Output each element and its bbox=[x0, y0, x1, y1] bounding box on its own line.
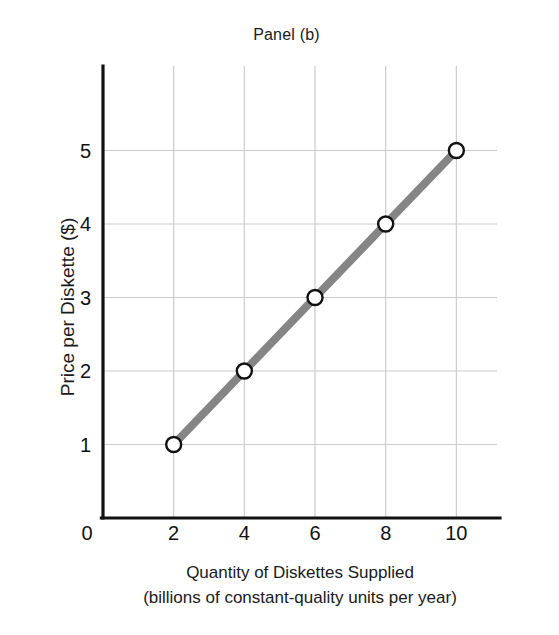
x-tick-label: 8 bbox=[366, 522, 406, 545]
data-point-marker bbox=[308, 290, 323, 305]
axis-lines bbox=[101, 66, 500, 518]
data-point-marker bbox=[378, 217, 393, 232]
y-tick-label: 4 bbox=[61, 213, 91, 236]
y-tick-label: 1 bbox=[61, 433, 91, 456]
gridlines bbox=[103, 66, 497, 518]
origin-tick-label: 0 bbox=[67, 522, 107, 545]
y-tick-label: 2 bbox=[61, 360, 91, 383]
x-tick-label: 6 bbox=[295, 522, 335, 545]
x-tick-label: 2 bbox=[154, 522, 194, 545]
chart-figure: Panel (b) Price per Diskette ($) Quantit… bbox=[0, 0, 559, 635]
data-point-marker bbox=[166, 437, 181, 452]
y-tick-label: 3 bbox=[61, 286, 91, 309]
data-point-marker bbox=[449, 143, 464, 158]
x-tick-label: 10 bbox=[436, 522, 476, 545]
y-tick-label: 5 bbox=[61, 139, 91, 162]
data-point-marker bbox=[237, 364, 252, 379]
x-tick-label: 4 bbox=[224, 522, 264, 545]
